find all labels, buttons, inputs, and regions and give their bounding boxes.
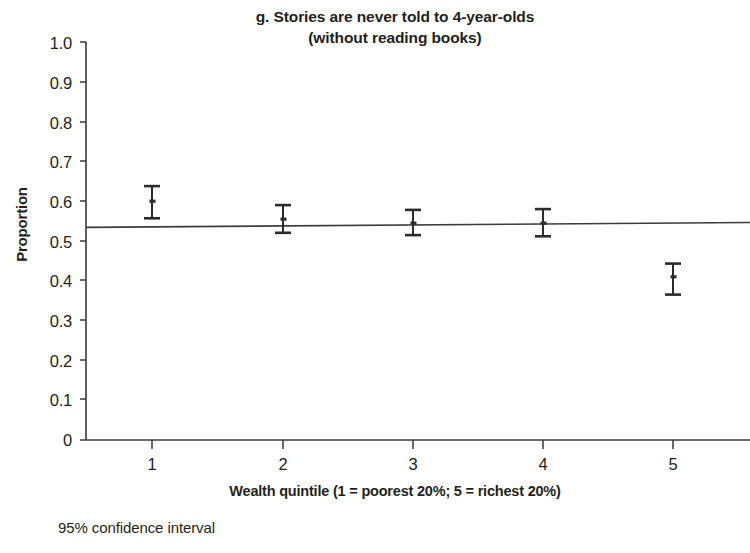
x-tick-label: 4 [523, 456, 563, 473]
x-tick-label: 5 [653, 456, 693, 473]
figure: g. Stories are never told to 4-year-olds… [0, 0, 750, 553]
x-tick-label: 1 [132, 456, 172, 473]
x-axis-title: Wealth quintile (1 = poorest 20%; 5 = ri… [95, 483, 695, 499]
x-axis-tick-labels: 1 2 3 4 5 [0, 0, 750, 553]
confidence-interval-note: 95% confidence interval [58, 519, 215, 536]
x-tick-label: 2 [263, 456, 303, 473]
x-tick-label: 3 [393, 456, 433, 473]
